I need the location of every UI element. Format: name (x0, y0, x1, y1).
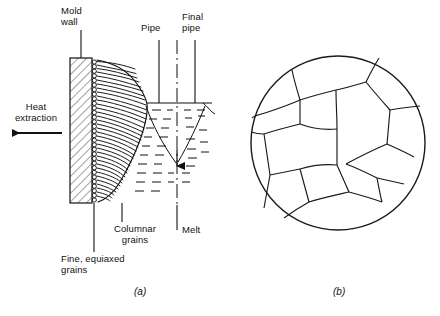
panel-a-group (12, 30, 215, 252)
caption-a: (a) (134, 286, 146, 297)
melt-label: Melt (182, 224, 200, 235)
caption-b: (b) (333, 286, 345, 297)
specimen-outline-circle (251, 56, 425, 230)
pipe-label: Pipe (141, 22, 160, 33)
mold-wall-label: Mold wall (61, 5, 82, 27)
columnar-grain-zone (97, 60, 147, 202)
right-solidification-front (203, 103, 215, 114)
panel-b-group (251, 56, 425, 230)
columnar-grains-label: Columnar grains (114, 223, 156, 245)
pipe-cavity (146, 106, 205, 163)
fine-equiaxed-grains-label: Fine, equiaxed grains (61, 253, 125, 275)
mold-wall-block (70, 58, 92, 203)
heat-extraction-label: Heat extraction (7, 101, 65, 123)
figure-container: Mold wall Pipe Final pipe Heat extractio… (0, 0, 440, 316)
fine-equiaxed-grain-layer (92, 60, 96, 202)
final-pipe-label: Final pipe (182, 11, 203, 33)
